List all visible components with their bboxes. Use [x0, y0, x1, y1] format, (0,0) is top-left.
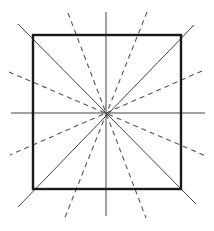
diagram-svg — [0, 0, 214, 231]
dashed-steep-left-line — [68, 13, 146, 218]
symmetry-lines-group — [11, 12, 205, 216]
symmetry-diagram — [0, 0, 214, 231]
